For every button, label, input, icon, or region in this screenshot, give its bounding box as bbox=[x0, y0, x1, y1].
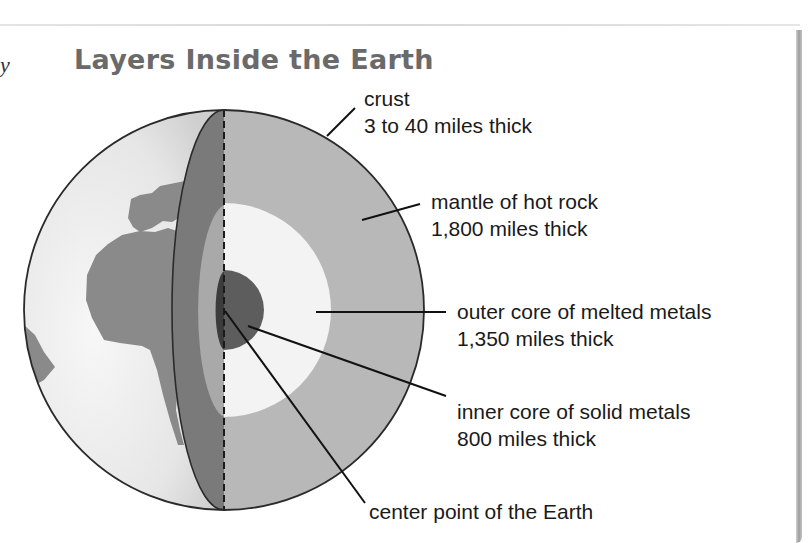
label-crust: crust 3 to 40 miles thick bbox=[364, 85, 532, 139]
label-center-point: center point of the Earth bbox=[369, 498, 593, 525]
label-inner-core-thickness: 800 miles thick bbox=[457, 425, 690, 452]
label-center-point-text: center point of the Earth bbox=[369, 498, 593, 525]
earth-layers-diagram bbox=[0, 0, 810, 543]
label-mantle-name: mantle of hot rock bbox=[431, 188, 598, 215]
label-inner-core-name: inner core of solid metals bbox=[457, 398, 690, 425]
label-crust-name: crust bbox=[364, 85, 532, 112]
leader-crust bbox=[327, 108, 355, 136]
label-inner-core: inner core of solid metals 800 miles thi… bbox=[457, 398, 690, 452]
label-mantle: mantle of hot rock 1,800 miles thick bbox=[431, 188, 598, 242]
label-outer-core: outer core of melted metals 1,350 miles … bbox=[457, 298, 711, 352]
label-crust-thickness: 3 to 40 miles thick bbox=[364, 112, 532, 139]
label-outer-core-name: outer core of melted metals bbox=[457, 298, 711, 325]
label-outer-core-thickness: 1,350 miles thick bbox=[457, 325, 711, 352]
label-mantle-thickness: 1,800 miles thick bbox=[431, 215, 598, 242]
